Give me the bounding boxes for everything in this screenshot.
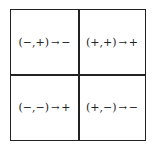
arrow-right-icon: → [51, 37, 59, 48]
sign-rule-grid: (−,+) → − (+,+) → + (−,−) → + (+,−) → − [10, 9, 146, 141]
cell-top-right: (+,+) → + [79, 10, 145, 74]
cell-output: + [129, 36, 138, 49]
cell-bottom-left: (−,−) → + [11, 75, 78, 140]
cell-bottom-right: (+,−) → − [79, 75, 145, 140]
cell-top-left: (−,+) → − [11, 10, 78, 74]
cell-output: − [129, 101, 138, 114]
arrow-right-icon: → [118, 37, 126, 48]
cell-output: + [61, 101, 70, 114]
cell-input: (+,−) [86, 101, 117, 114]
cell-output: − [61, 36, 70, 49]
arrow-right-icon: → [118, 102, 126, 113]
cell-input: (+,+) [86, 36, 117, 49]
arrow-right-icon: → [51, 102, 59, 113]
cell-input: (−,−) [18, 101, 49, 114]
cell-input: (−,+) [18, 36, 49, 49]
